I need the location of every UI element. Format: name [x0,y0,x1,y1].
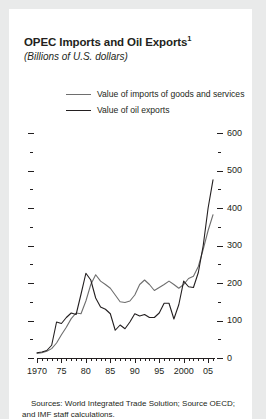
y-axis-label: 100 [227,316,242,325]
y-axis-label: 200 [227,279,242,288]
source-note: Sources: World Integrated Trade Solution… [22,399,240,419]
y-axis-label: 300 [227,241,242,250]
y-axis-label: 400 [227,204,242,213]
y-axis-label: 0 [227,354,232,363]
x-axis-label: 05 [193,367,223,376]
plot-area: 010020030040050060019707580859095200005 [9,9,252,419]
figure-card: OPEC Imports and Oil Exports1 (Billions … [9,9,252,419]
y-axis-label: 500 [227,166,242,175]
y-axis-label: 600 [227,129,242,138]
chart-canvas [9,9,252,419]
